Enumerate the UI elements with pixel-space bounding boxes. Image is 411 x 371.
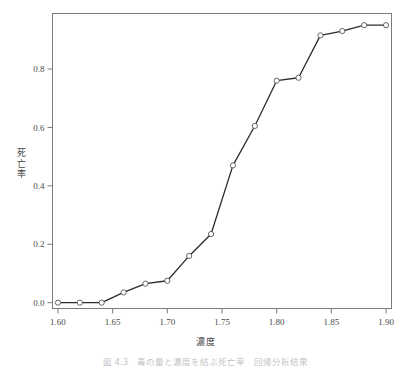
y-axis-title-char-2: 亡 bbox=[14, 159, 28, 170]
data-point bbox=[340, 28, 345, 33]
data-point bbox=[362, 23, 367, 28]
figure-caption: 図 4.3 毒の量と濃度を結ぶ死亡率 回帰分析結果 bbox=[0, 355, 411, 367]
x-tick-label: 1.80 bbox=[269, 317, 285, 327]
y-axis-title: 死 亡 率 bbox=[14, 148, 28, 180]
data-point bbox=[296, 75, 301, 80]
y-axis-ticks bbox=[48, 69, 53, 303]
x-tick-label: 1.75 bbox=[214, 317, 230, 327]
data-point bbox=[187, 253, 192, 258]
y-tick-label: 0.4 bbox=[33, 181, 45, 191]
data-point bbox=[208, 231, 213, 236]
x-axis-title: 濃度 bbox=[0, 335, 411, 348]
data-series-group bbox=[55, 23, 388, 306]
chart-canvas: 0.00.20.40.60.8 1.601.651.701.751.801.85… bbox=[0, 0, 411, 371]
data-point bbox=[121, 290, 126, 295]
data-point bbox=[252, 123, 257, 128]
x-tick-label: 1.90 bbox=[378, 317, 394, 327]
y-axis-title-char-3: 率 bbox=[14, 169, 28, 180]
y-axis-title-char-1: 死 bbox=[14, 148, 28, 159]
y-tick-label: 0.8 bbox=[33, 64, 45, 74]
figure-container: 0.00.20.40.60.8 1.601.651.701.751.801.85… bbox=[0, 0, 411, 371]
data-point bbox=[318, 33, 323, 38]
data-point bbox=[383, 23, 388, 28]
x-tick-label: 1.85 bbox=[323, 317, 339, 327]
data-point bbox=[143, 281, 148, 286]
y-tick-label: 0.6 bbox=[33, 123, 45, 133]
y-axis-tick-labels: 0.00.20.40.60.8 bbox=[33, 64, 45, 308]
data-point bbox=[274, 78, 279, 83]
data-point bbox=[55, 300, 60, 305]
plot-frame bbox=[53, 14, 392, 309]
x-tick-label: 1.60 bbox=[50, 317, 66, 327]
data-point bbox=[99, 300, 104, 305]
data-point bbox=[165, 278, 170, 283]
x-tick-label: 1.70 bbox=[159, 317, 175, 327]
x-axis-ticks bbox=[58, 309, 386, 314]
y-tick-label: 0.2 bbox=[33, 239, 44, 249]
data-point bbox=[230, 163, 235, 168]
x-tick-label: 1.65 bbox=[105, 317, 121, 327]
data-line-mortality bbox=[58, 25, 386, 302]
data-point bbox=[77, 300, 82, 305]
y-tick-label: 0.0 bbox=[33, 298, 45, 308]
x-axis-tick-labels: 1.601.651.701.751.801.851.90 bbox=[50, 317, 394, 327]
data-markers-mortality bbox=[55, 23, 388, 306]
